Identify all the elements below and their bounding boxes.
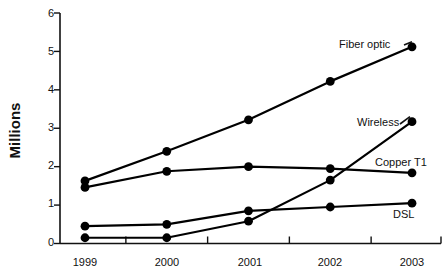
data-point	[326, 164, 335, 173]
data-point	[81, 222, 90, 231]
line-chart: Millions 6 5 4 3 2 1 0 1999 2000 2001 20…	[0, 0, 447, 280]
label-leader-lines	[400, 42, 412, 124]
data-point	[244, 115, 253, 124]
data-point	[408, 199, 417, 208]
data-point	[326, 203, 335, 212]
y-axis-ticks	[54, 13, 60, 244]
data-point	[162, 167, 171, 176]
data-point	[244, 206, 253, 215]
data-point	[408, 117, 417, 126]
series-dsl	[81, 199, 417, 231]
data-point	[81, 233, 90, 242]
data-point	[408, 168, 417, 177]
data-point	[326, 176, 335, 185]
data-point	[244, 162, 253, 171]
data-point	[162, 147, 171, 156]
series-wireless	[81, 117, 417, 242]
data-point	[162, 220, 171, 229]
data-series-layer	[81, 42, 417, 242]
plot-area	[0, 0, 447, 280]
data-point	[326, 77, 335, 86]
data-point	[244, 217, 253, 226]
data-point	[162, 233, 171, 242]
data-point	[81, 183, 90, 192]
series-copper-t1	[81, 162, 417, 192]
